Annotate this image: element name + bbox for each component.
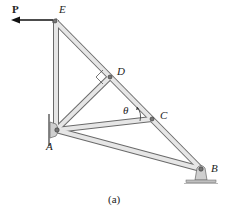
joint-D bbox=[108, 75, 112, 79]
node-label-E: E bbox=[59, 4, 66, 15]
figure-caption: (a) bbox=[108, 194, 120, 205]
joint-E bbox=[53, 19, 57, 23]
joint-C bbox=[150, 117, 154, 121]
node-label-A: A bbox=[46, 141, 53, 152]
member-AC bbox=[56, 119, 152, 130]
angle-label-theta: θ bbox=[123, 105, 128, 116]
node-label-B: B bbox=[211, 163, 218, 174]
truss-members bbox=[54, 20, 201, 169]
joint-B bbox=[199, 167, 203, 171]
arrowhead-icon bbox=[11, 17, 20, 24]
truss-diagram bbox=[0, 0, 234, 213]
joint-A bbox=[55, 128, 59, 132]
node-label-C: C bbox=[160, 110, 167, 121]
node-label-D: D bbox=[117, 66, 125, 77]
load-arrow-P bbox=[11, 17, 53, 24]
load-label: P bbox=[12, 4, 19, 15]
